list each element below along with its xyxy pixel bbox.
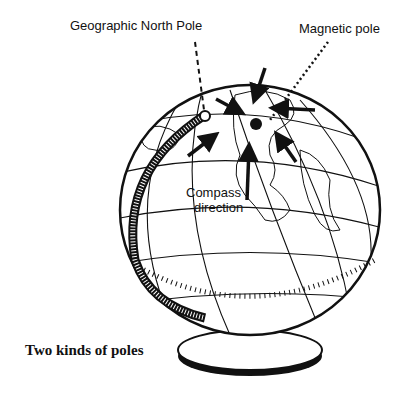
globe-sphere: [110, 80, 390, 335]
caption: Two kinds of poles: [25, 342, 144, 359]
geographic-north-pole-label: Geographic North Pole: [70, 18, 202, 33]
magnetic-pole-label: Magnetic pole: [299, 21, 380, 36]
globe-diagram: Geographic North Pole Magnetic pole Comp…: [0, 0, 410, 402]
compass-label-line1: Compass: [186, 185, 241, 200]
compass-label-line2: direction: [194, 200, 243, 215]
magnetic-pole-dot: [250, 118, 262, 130]
